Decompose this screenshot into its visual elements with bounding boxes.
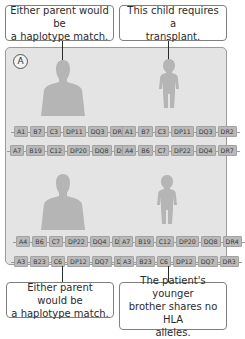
allele-tag: DP11 [63, 126, 86, 137]
allele-tag: A4 [122, 145, 136, 156]
haplotype-row: A4 B6 C7 DP22 DQ4 DR7 [16, 236, 131, 247]
callout-text-line: transplant. [124, 30, 222, 43]
callout-text-line: This child requires a [124, 4, 222, 30]
allele-tag: DR2 [218, 126, 237, 137]
allele-tag: DR4 [223, 236, 242, 247]
allele-tag: B23 [136, 256, 154, 267]
allele-tag: C7 [155, 145, 169, 156]
allele-tag: DQ4 [90, 236, 110, 247]
allele-tag: C3 [155, 126, 169, 137]
allele-tag: C7 [49, 236, 63, 247]
allele-tag: A3 [120, 256, 134, 267]
allele-tag: B19 [135, 236, 153, 247]
haplotype-row: A1 B7 C3 DP11 DQ3 DR2 [14, 126, 129, 137]
callout-parent-bottom: Either parent would be a haplotype match… [6, 282, 114, 318]
allele-tag: C12 [47, 145, 65, 156]
callout-parent-top: Either parent would be a haplotype match… [5, 5, 114, 41]
allele-tag: DP12 [67, 256, 90, 267]
callout-patient: This child requires a transplant. [119, 5, 227, 41]
adult-figure-icon [40, 58, 86, 116]
allele-tag: A7 [119, 236, 133, 247]
allele-tag: DP20 [176, 236, 199, 247]
allele-tag: DR3 [220, 256, 239, 267]
callout-text-line: a haplotype match. [11, 307, 109, 320]
allele-tag: DQ8 [92, 145, 112, 156]
callout-text-line: alleles. [124, 326, 222, 339]
allele-tag: A3 [14, 256, 28, 267]
panel-label: A [13, 54, 28, 69]
allele-tag: DQ7 [92, 256, 112, 267]
haplotype-row: A1 B7 C3 DP11 DQ3 DR2 [122, 126, 237, 137]
allele-tag: B7 [138, 126, 152, 137]
haplotype-row: A3 B23 C6 DP12 DQ7 DR3 [14, 256, 133, 267]
allele-tag: A1 [14, 126, 28, 137]
callout-text-line: brother shares no HLA [124, 300, 222, 326]
allele-tag: A1 [122, 126, 136, 137]
allele-tag: C12 [156, 236, 174, 247]
callout-text-line: Either parent would be [10, 4, 109, 30]
allele-tag: B19 [26, 145, 44, 156]
allele-tag: B6 [138, 145, 152, 156]
allele-tag: DP11 [171, 126, 194, 137]
allele-tag: DR7 [218, 145, 237, 156]
allele-tag: DP12 [173, 256, 196, 267]
allele-tag: DQ3 [196, 126, 216, 137]
allele-tag: A4 [16, 236, 30, 247]
allele-tag: B23 [30, 256, 48, 267]
allele-tag: DP22 [171, 145, 194, 156]
allele-tag: B6 [32, 236, 46, 247]
haplotype-row: A7 B19 C12 DP20 DQ8 DR4 [119, 236, 242, 247]
allele-tag: B7 [30, 126, 44, 137]
allele-tag: DP22 [65, 236, 88, 247]
child-figure-icon [157, 58, 181, 110]
haplotype-row: A3 B23 C6 DP12 DQ7 DR3 [120, 256, 239, 267]
allele-tag: A7 [10, 145, 24, 156]
callout-brother: The patient's younger brother shares no … [119, 282, 227, 330]
haplotype-row: A4 B6 C7 DP22 DQ4 DR7 [122, 145, 237, 156]
callout-text-line: Either parent would be [11, 281, 109, 307]
allele-tag: DQ4 [196, 145, 216, 156]
allele-tag: C3 [47, 126, 61, 137]
allele-tag: DP20 [67, 145, 90, 156]
allele-tag: DQ8 [201, 236, 221, 247]
allele-tag: DQ3 [88, 126, 108, 137]
callout-text-line: a haplotype match. [10, 30, 109, 43]
haplotype-row: A7 B19 C12 DP20 DQ8 DR4 [10, 145, 133, 156]
callout-text-line: The patient's younger [124, 274, 222, 300]
child-figure-icon [155, 174, 179, 226]
adult-figure-icon [40, 172, 86, 230]
family-panel: A [5, 47, 227, 265]
allele-tag: DQ7 [198, 256, 218, 267]
